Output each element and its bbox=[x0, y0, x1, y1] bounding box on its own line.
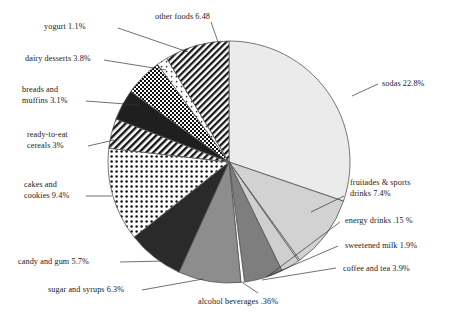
label-fruitades-2: drinks 7.4% bbox=[350, 189, 391, 200]
label-cereals-1: ready-to-eat bbox=[27, 130, 68, 141]
leader-line-yogurt bbox=[118, 28, 188, 52]
label-breads-muffins-1: breads and bbox=[22, 85, 58, 96]
leader-line-sugar-syrups bbox=[142, 279, 203, 290]
label-sweetened-milk: sweetened milk 1.9% bbox=[345, 241, 417, 252]
label-dairy-desserts: dairy desserts 3.8% bbox=[25, 54, 91, 65]
label-sodas: sodas 22.8% bbox=[382, 79, 425, 90]
label-cakes-cookies-2: cookies 9.4% bbox=[24, 191, 69, 202]
label-cakes-cookies-1: cakes and bbox=[24, 180, 57, 191]
pie-chart-figure: other foods 6.48 yogurt 1.1% dairy desse… bbox=[0, 0, 453, 317]
pie-slices-group bbox=[108, 41, 350, 283]
label-sugar-syrups: sugar and syrups 6.3% bbox=[48, 285, 124, 296]
label-breads-muffins-2: muffins 3.1% bbox=[22, 96, 68, 107]
label-alcohol: alcohol beverages .36% bbox=[198, 297, 278, 308]
label-cereals-2: cereals 3% bbox=[27, 141, 64, 152]
leader-line-sodas bbox=[352, 84, 378, 96]
label-energy-drinks: energy drinks .15 % bbox=[345, 216, 413, 227]
label-yogurt: yogurt 1.1% bbox=[44, 22, 86, 33]
leader-line-candy-gum bbox=[120, 261, 166, 262]
leader-line-alcohol bbox=[243, 283, 258, 293]
leader-line-other-foods bbox=[211, 22, 218, 42]
label-candy-gum: candy and gum 5.7% bbox=[18, 257, 89, 268]
label-coffee-tea: coffee and tea 3.9% bbox=[343, 264, 410, 275]
label-fruitades-1: fruitades & sports bbox=[350, 178, 410, 189]
label-other-foods: other foods 6.48 bbox=[155, 12, 210, 23]
